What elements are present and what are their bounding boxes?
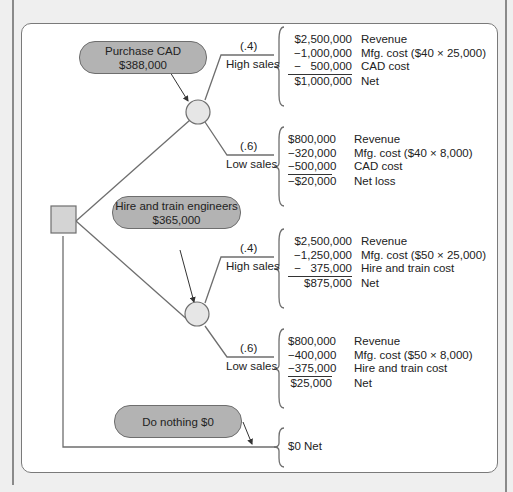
decision-label: Do nothing $0 bbox=[142, 415, 214, 429]
label: Mfg. cost ($40 × 8,000) bbox=[332, 147, 473, 161]
amount: $2,500,000 bbox=[288, 235, 352, 249]
label: Hire and train cost bbox=[352, 262, 454, 277]
label: Net bbox=[332, 377, 372, 391]
probability-cad-high: (.4) bbox=[240, 40, 257, 52]
label: Hire and train cost bbox=[332, 362, 447, 377]
amount: $1,000,000 bbox=[288, 75, 352, 89]
decision-cost: $365,000 bbox=[153, 213, 201, 227]
amount: $2,500,000 bbox=[288, 33, 352, 47]
amount: −500,000 bbox=[288, 160, 332, 175]
amount: $875,000 bbox=[288, 277, 352, 291]
amount: −$20,000 bbox=[288, 175, 332, 189]
branch-cad-high: High sales bbox=[226, 58, 280, 70]
probability-hire-low: (.6) bbox=[240, 342, 257, 354]
amount: −1,250,000 bbox=[288, 249, 352, 263]
decision-purchase-cad: Purchase CAD $388,000 bbox=[79, 41, 207, 74]
outcome-cad-high: $2,500,000Revenue −1,000,000Mfg. cost ($… bbox=[288, 33, 486, 88]
label: Revenue bbox=[332, 133, 400, 147]
label: CAD cost bbox=[352, 60, 410, 75]
probability-cad-low: (.6) bbox=[240, 140, 257, 152]
decision-label: Hire and train engineers bbox=[115, 199, 238, 213]
label: Revenue bbox=[352, 235, 407, 249]
label: Net bbox=[352, 75, 379, 89]
decision-hire-train: Hire and train engineers $365,000 bbox=[112, 196, 241, 229]
decision-cost: $388,000 bbox=[119, 58, 167, 72]
amount: −400,000 bbox=[288, 349, 332, 363]
branch-hire-high: High sales bbox=[226, 260, 280, 272]
amount: −320,000 bbox=[288, 147, 332, 161]
outcome-do-nothing: $0 Net bbox=[288, 440, 322, 454]
label: Net bbox=[352, 277, 379, 291]
label: Mfg. cost ($50 × 25,000) bbox=[352, 249, 486, 263]
amount: −375,000 bbox=[288, 362, 332, 377]
outcome-cad-low: $800,000Revenue −320,000Mfg. cost ($40 ×… bbox=[288, 133, 473, 188]
amount: − 500,000 bbox=[288, 60, 352, 75]
label: Revenue bbox=[332, 335, 400, 349]
label: Revenue bbox=[352, 33, 407, 47]
decision-label: Purchase CAD bbox=[105, 44, 181, 58]
amount: $800,000 bbox=[288, 133, 332, 147]
branch-hire-low: Low sales bbox=[226, 360, 277, 372]
amount: $25,000 bbox=[288, 377, 332, 391]
amount: − 375,000 bbox=[288, 262, 352, 277]
decision-node bbox=[51, 206, 76, 233]
outcome-hire-high: $2,500,000Revenue −1,250,000Mfg. cost ($… bbox=[288, 235, 486, 290]
branch-cad-low: Low sales bbox=[226, 158, 277, 170]
probability-hire-high: (.4) bbox=[240, 242, 257, 254]
chance-node-cad bbox=[186, 100, 210, 124]
amount: $800,000 bbox=[288, 335, 332, 349]
label: Mfg. cost ($50 × 8,000) bbox=[332, 349, 473, 363]
label: Mfg. cost ($40 × 25,000) bbox=[352, 47, 486, 61]
label: Net loss bbox=[332, 175, 396, 189]
chance-node-hire bbox=[185, 302, 209, 326]
label: CAD cost bbox=[332, 160, 403, 175]
decision-do-nothing: Do nothing $0 bbox=[114, 405, 242, 438]
amount: −1,000,000 bbox=[288, 47, 352, 61]
outcome-hire-low: $800,000Revenue −400,000Mfg. cost ($50 ×… bbox=[288, 335, 473, 390]
